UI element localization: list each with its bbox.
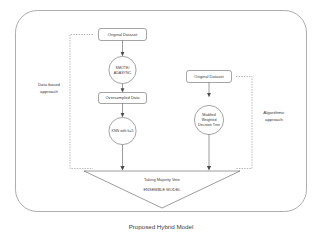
diagram-canvas: Original Dataset SMOTE/ ADASYNC Oversamp… [0, 0, 322, 237]
node-oversampled-data-label: Oversampled Data [105, 95, 140, 100]
node-original-dataset-left-label: Original Dataset [108, 32, 138, 37]
label-data-based-approach-line2: approach [40, 89, 59, 94]
label-data-based-approach-line1: Data based [38, 82, 61, 87]
node-modified-weighted-decision-tree-label-line2: Weighted [201, 118, 216, 122]
node-modified-weighted-decision-tree-label-line3: Decision Tree [198, 123, 220, 127]
node-smote-adasync-label-line1: SMOTE/ [116, 66, 130, 70]
node-knn-label: KNN with k=5 [112, 129, 134, 133]
proposed-hybrid-model-figure: Original Dataset SMOTE/ ADASYNC Oversamp… [0, 0, 322, 237]
node-original-dataset-right-label: Original Dataset [194, 74, 224, 79]
node-modified-weighted-decision-tree-label-line1: Modified [202, 113, 216, 117]
label-algorithmic-approach-line1: Algorithmic [263, 110, 285, 115]
ensemble-label-taking-majority-vote: Taking Majority Vote [144, 177, 181, 182]
node-smote-adasync-label-line2: ADASYNC [114, 71, 132, 75]
ensemble-label-ensemble-model: ENSEMBLE MODEL [143, 187, 181, 192]
figure-caption: Proposed Hybrid Model [129, 223, 194, 230]
label-algorithmic-approach-line2: approach [265, 117, 284, 122]
